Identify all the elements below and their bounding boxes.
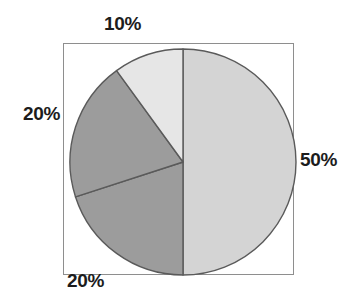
pie-slice-label-top: 10% [104, 14, 141, 33]
pie-slice-label-bottom: 20% [67, 271, 104, 290]
pie-slice-label-left: 20% [23, 104, 60, 123]
pie-chart-figure: 10% 20% 50% 20% [0, 0, 359, 298]
pie-slice-label-right: 50% [300, 150, 337, 169]
plot-frame [63, 43, 294, 275]
